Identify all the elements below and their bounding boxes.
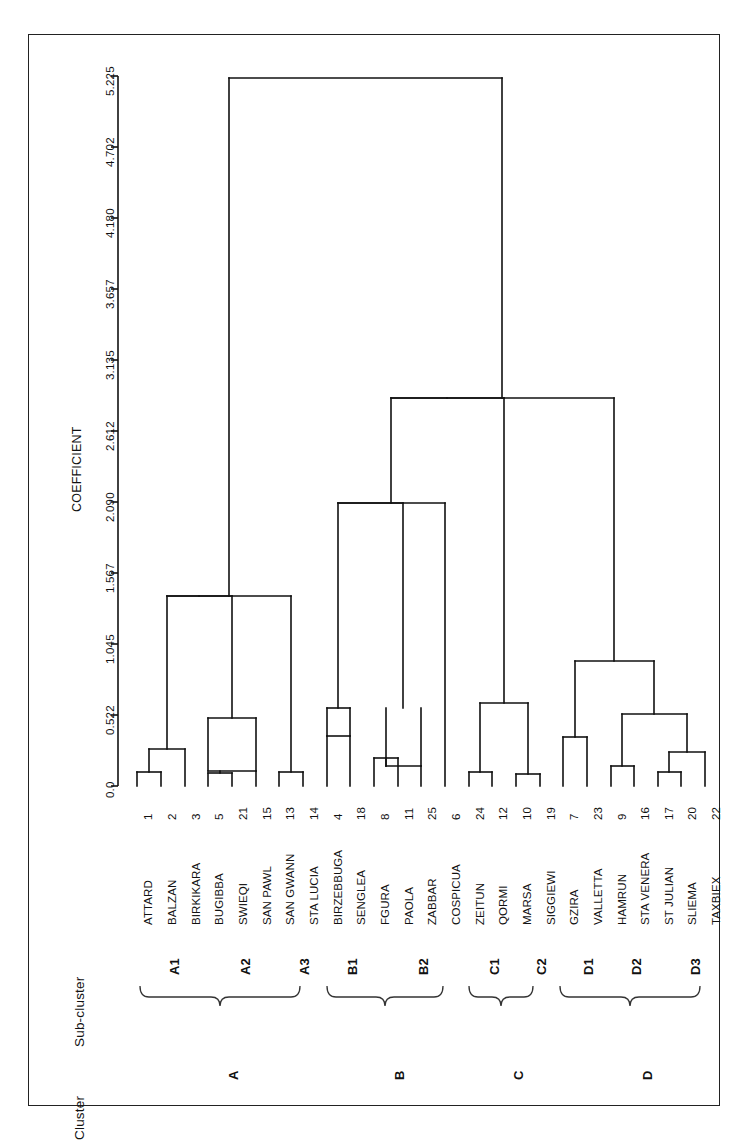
leaf-label: QORMI	[497, 886, 509, 925]
subcluster-label-c1: C1	[487, 958, 502, 975]
dendrogram-tree	[137, 78, 705, 786]
leaf-label: STA LUCIA	[308, 866, 320, 925]
leaf-label: BALZAN	[166, 880, 178, 925]
cluster-header: Cluster	[72, 1096, 87, 1140]
leaf-label: SAN PAWL	[261, 866, 273, 925]
axis-tick-1: 4.702	[104, 137, 116, 167]
leaf-label: PAOLA	[403, 887, 415, 925]
axis-tick-8: 1.045	[104, 634, 116, 664]
axis-tick-5: 2.612	[104, 421, 116, 451]
leaf-label: ZABBAR	[426, 878, 438, 925]
leaf-number: 19	[545, 807, 557, 820]
leaf-number: 2	[166, 813, 178, 820]
leaf-number: 9	[616, 813, 628, 820]
leaf-number: 21	[237, 807, 249, 820]
leaf-label: ATTARD	[142, 880, 154, 925]
cluster-label-a: A	[226, 1070, 241, 1080]
leaf-label: SENGLEA	[355, 870, 367, 925]
leaf-number: 12	[497, 807, 509, 820]
subcluster-label-d3: D3	[688, 958, 703, 975]
leaf-number: 17	[663, 807, 675, 820]
axis-tick-9: 0.522	[104, 705, 116, 735]
subcluster-label-a3: A3	[297, 958, 312, 975]
leaf-number: 16	[639, 807, 651, 820]
leaf-number: 4	[332, 813, 344, 820]
subcluster-label-a1: A1	[167, 958, 182, 975]
leaf-number: 15	[261, 807, 273, 820]
leaf-label: MARSA	[521, 884, 533, 925]
leaf-label: SAN GWANN	[284, 854, 296, 925]
leaf-number: 22	[710, 807, 722, 820]
subcluster-label-c2: C2	[534, 958, 549, 975]
axis-tick-0: 5.225	[104, 66, 116, 96]
leaf-label: GZIRA	[568, 889, 580, 925]
subcluster-label-d1: D1	[581, 958, 596, 975]
leaf-number: 10	[521, 807, 533, 820]
cluster-label-c: C	[511, 1070, 526, 1080]
subcluster-label-d2: D2	[629, 958, 644, 975]
leaf-label: SLIEMA	[686, 882, 698, 925]
leaf-label: HAMRUN	[616, 874, 628, 925]
leaf-number: 25	[426, 807, 438, 820]
cluster-label-d: D	[640, 1070, 655, 1080]
leaf-label: BIRZEBBUGA	[332, 850, 344, 925]
leaf-label: FGURA	[379, 884, 391, 925]
leaf-label: SWIEQI	[237, 883, 249, 925]
axis-tick-10: 0.0	[104, 781, 116, 798]
axis-tick-4: 3.135	[104, 350, 116, 380]
leaf-number: 5	[213, 813, 225, 820]
leaf-number: 1	[142, 813, 154, 820]
leaf-number: 8	[379, 813, 391, 820]
leaf-number: 18	[355, 807, 367, 820]
leaf-number: 20	[686, 807, 698, 820]
leaf-label: TAXBIEX	[710, 877, 722, 925]
leaf-label: ZEITUN	[474, 883, 486, 925]
axis-tick-6: 2.090	[104, 492, 116, 522]
leaf-label: ST JULIAN	[663, 867, 675, 925]
leaf-label: SIGGIEWI	[545, 871, 557, 925]
axis-title-coefficient: COEFFICIENT	[70, 426, 84, 512]
leaf-label: VALLETTA	[592, 868, 604, 925]
leaf-number: 13	[284, 807, 296, 820]
axis-tick-2: 4.180	[104, 208, 116, 238]
axis-tick-3: 3.657	[104, 279, 116, 309]
leaf-number: 23	[592, 807, 604, 820]
cluster-label-b: B	[392, 1070, 407, 1080]
leaf-number: 7	[568, 813, 580, 820]
subcluster-header: Sub-cluster	[72, 977, 87, 1047]
leaf-number: 14	[308, 807, 320, 820]
leaf-number: 3	[190, 813, 202, 820]
subcluster-label-b1: B1	[345, 958, 360, 975]
leaf-label: STA VENERA	[639, 853, 651, 925]
leaf-label: BUGIBBA	[213, 873, 225, 925]
subcluster-label-a2: A2	[238, 958, 253, 975]
subcluster-label-b2: B2	[416, 958, 431, 975]
leaf-label: COSPICUA	[450, 864, 462, 925]
leaf-number: 11	[403, 808, 415, 820]
cluster-braces	[140, 986, 700, 1006]
leaf-number: 6	[450, 813, 462, 820]
leaf-label: BIRKIKARA	[190, 863, 202, 925]
axis-tick-7: 1.567	[104, 563, 116, 593]
leaf-number: 24	[474, 807, 486, 820]
